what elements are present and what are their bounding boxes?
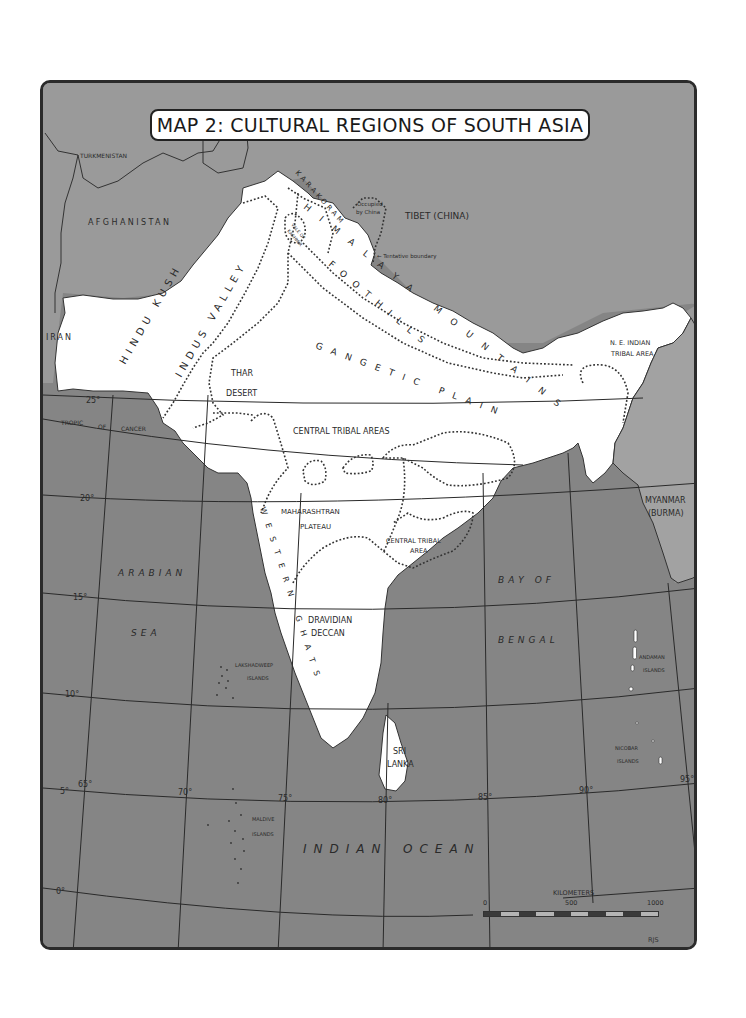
label-ne-tribal-2: TRIBAL AREA xyxy=(610,350,654,358)
lat-25: 25° xyxy=(86,396,100,405)
lon-95: 95° xyxy=(680,775,694,784)
label-myanmar-2: (BURMA) xyxy=(648,509,684,518)
lon-85: 85° xyxy=(478,793,492,802)
label-iran: IRAN xyxy=(46,333,73,342)
label-dravidian-2: DECCAN xyxy=(311,629,345,638)
label-bengal: BENGAL xyxy=(498,635,559,645)
label-arabian: ARABIAN xyxy=(117,568,186,578)
scale-tick-500: 500 xyxy=(565,899,577,907)
label-thar-1: THAR xyxy=(230,369,253,378)
label-central-tribal-area-2: AREA xyxy=(410,547,428,555)
label-maharashtran-2: PLATEAU xyxy=(300,523,331,531)
label-ne-tribal-1: N. E. INDIAN xyxy=(610,339,650,347)
label-tibet: TIBET (CHINA) xyxy=(404,211,469,221)
label-cancer: CANCER xyxy=(121,425,146,432)
label-central-tribal-areas: CENTRAL TRIBAL AREAS xyxy=(293,427,390,436)
scale-tick-0: 0 xyxy=(483,899,487,907)
label-andaman-2: ISLANDS xyxy=(643,667,665,673)
label-sri-lanka-2: LANKA xyxy=(387,760,414,769)
map-frame: TURKMENISTAN AFGHANISTAN IRAN TIBET (CHI… xyxy=(40,80,697,950)
lon-70: 70° xyxy=(178,788,192,797)
label-afghanistan: AFGHANISTAN xyxy=(88,218,171,227)
label-lakshadweep-1: LAKSHADWEEP xyxy=(235,662,273,668)
lat-10: 10° xyxy=(65,690,79,699)
label-of: OF xyxy=(98,423,107,430)
lon-75: 75° xyxy=(278,794,292,803)
lon-80: 80° xyxy=(378,796,392,805)
label-tentative-boundary: ← Tentative boundary xyxy=(377,253,437,260)
label-dravidian-1: DRAVIDIAN xyxy=(308,616,352,625)
map-title-box: MAP 2: CULTURAL REGIONS OF SOUTH ASIA xyxy=(150,109,590,141)
scale-bar-graphic xyxy=(483,911,659,917)
label-occupied-1: Occupied xyxy=(357,201,383,208)
lat-20: 20° xyxy=(80,494,94,503)
label-maharashtran-1: MAHARASHTRAN xyxy=(281,508,340,516)
scale-tick-1000: 1000 xyxy=(647,899,664,907)
lat-0: 0° xyxy=(56,887,65,896)
label-occupied-2: by China xyxy=(356,209,380,216)
label-thar-2: DESERT xyxy=(226,389,257,398)
lon-90: 90° xyxy=(579,786,593,795)
label-tropic: TROPIC xyxy=(60,419,83,426)
label-ocean: OCEAN xyxy=(403,842,481,856)
label-indian: INDIAN xyxy=(303,842,387,856)
lat-15: 15° xyxy=(73,593,87,602)
label-andaman-1: ANDAMAN xyxy=(639,654,665,660)
label-myanmar-1: MYANMAR xyxy=(645,496,686,505)
label-sea: SEA xyxy=(131,628,161,638)
label-nicobar-2: ISLANDS xyxy=(617,758,639,764)
map-title: MAP 2: CULTURAL REGIONS OF SOUTH ASIA xyxy=(157,114,583,136)
label-central-tribal-area-1: CENTRAL TRIBAL xyxy=(386,537,441,545)
label-nicobar-1: NICOBAR xyxy=(615,745,638,751)
lon-65: 65° xyxy=(78,780,92,789)
label-sri-lanka-1: SRI xyxy=(393,747,406,756)
label-turkmenistan: TURKMENISTAN xyxy=(79,152,127,159)
map-credit: RJS xyxy=(648,936,659,944)
map-canvas: TURKMENISTAN AFGHANISTAN IRAN TIBET (CHI… xyxy=(43,83,697,950)
lat-5: 5° xyxy=(60,787,69,796)
label-maldive-1: MALDIVE xyxy=(252,816,274,822)
label-maldive-2: ISLANDS xyxy=(252,831,274,837)
scale-title: KILOMETERS xyxy=(553,889,594,897)
label-bay-of: BAY OF xyxy=(498,575,555,585)
label-lakshadweep-2: ISLANDS xyxy=(247,675,269,681)
